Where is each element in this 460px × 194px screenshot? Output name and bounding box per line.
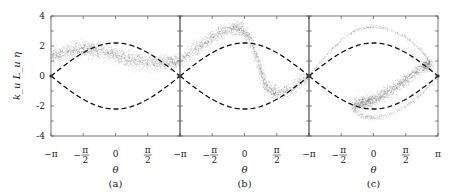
x-tick-label: π — [340, 145, 346, 155]
y-tick-label: -4 — [36, 131, 45, 141]
svg-text:2: 2 — [145, 155, 151, 165]
x-tick-label: 0 — [371, 149, 377, 159]
x-axis-label: θ — [370, 164, 376, 175]
x-tick-label: π — [211, 145, 217, 155]
x-tick-label: −π — [44, 149, 58, 159]
x-tick-label: π — [145, 145, 151, 155]
x-axis-label: θ — [112, 164, 118, 175]
x-axis-label: θ — [241, 164, 247, 175]
figure: -4-2024−ππ2−0π2−πθ(a)π2−0π2−πθ(b)π2−0π2π… — [0, 0, 460, 194]
y-tick-label: 0 — [39, 71, 45, 81]
svg-text:2: 2 — [274, 155, 280, 165]
svg-text:−: − — [73, 150, 81, 160]
x-tick-label: 0 — [242, 149, 248, 159]
particle-clouds — [47, 19, 439, 122]
y-tick-label: 4 — [39, 11, 45, 21]
svg-text:2: 2 — [340, 155, 346, 165]
y-tick-label: -2 — [36, 101, 45, 111]
panel-label: (c) — [367, 178, 381, 189]
svg-text:−: − — [202, 150, 210, 160]
x-tick-label: 0 — [113, 149, 119, 159]
x-tick-label: −π — [173, 149, 187, 159]
x-tick-label: −π — [302, 149, 316, 159]
y-axis-label: k_u L_u η — [11, 52, 23, 100]
x-tick-label: π — [435, 149, 441, 159]
panel-label: (a) — [109, 178, 123, 189]
x-tick-label: π — [403, 145, 409, 155]
x-tick-label: π — [82, 145, 88, 155]
x-tick-label: π — [274, 145, 280, 155]
tick-labels: -4-2024−ππ2−0π2−πθ(a)π2−0π2−πθ(b)π2−0π2π… — [36, 11, 441, 189]
svg-text:2: 2 — [82, 155, 88, 165]
svg-text:−: − — [331, 150, 339, 160]
panel-label: (b) — [237, 178, 251, 189]
svg-text:2: 2 — [211, 155, 217, 165]
y-tick-label: 2 — [39, 41, 45, 51]
svg-text:2: 2 — [403, 155, 409, 165]
